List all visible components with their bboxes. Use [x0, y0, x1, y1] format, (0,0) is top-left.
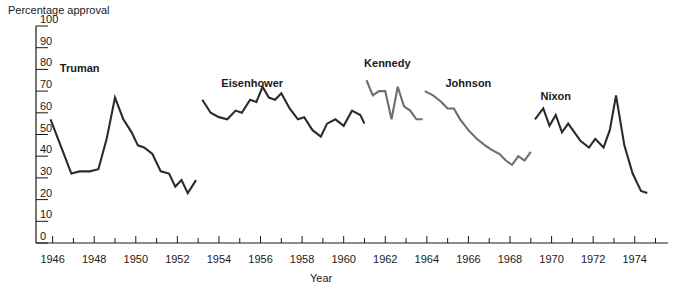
series-line-johnson — [425, 91, 531, 165]
series-annotations: TrumanEisenhowerKennedyJohnsonNixon — [60, 57, 572, 102]
x-tick-label: 1946 — [40, 253, 64, 265]
y-tick-label: 70 — [40, 78, 52, 90]
x-tick-label: 1962 — [373, 253, 397, 265]
series-label-kennedy: Kennedy — [364, 57, 411, 69]
x-tick-label: 1966 — [456, 253, 480, 265]
y-tick-label: 60 — [40, 100, 52, 112]
series-label-truman: Truman — [60, 62, 100, 74]
y-tick-label: 30 — [40, 165, 52, 177]
series-label-nixon: Nixon — [540, 90, 571, 102]
x-tick-label: 1974 — [622, 253, 646, 265]
y-tick-label: 20 — [40, 187, 52, 199]
y-tick-label: 0 — [40, 230, 46, 242]
x-tick-label: 1960 — [331, 253, 355, 265]
x-axis-title: Year — [310, 272, 333, 284]
series-line-truman — [51, 98, 197, 193]
y-tick-label: 10 — [40, 208, 52, 220]
x-axis-group: 1946194819501952195419561958196019621964… — [36, 236, 668, 265]
y-tick-label: 90 — [40, 35, 52, 47]
series-line-nixon — [535, 95, 647, 193]
x-tick-label: 1952 — [165, 253, 189, 265]
x-tick-label: 1954 — [207, 253, 231, 265]
series-label-johnson: Johnson — [445, 77, 491, 89]
x-axis-tick-labels: 1946194819501952195419561958196019621964… — [40, 253, 647, 265]
series-line-eisenhower — [202, 87, 364, 137]
y-tick-label: 50 — [40, 122, 52, 134]
series-label-eisenhower: Eisenhower — [221, 77, 283, 89]
x-tick-label: 1956 — [248, 253, 272, 265]
x-tick-label: 1972 — [581, 253, 605, 265]
y-tick-label: 80 — [40, 56, 52, 68]
x-tick-label: 1964 — [415, 253, 439, 265]
chart-canvas: 0102030405060708090100 19461948195019521… — [0, 0, 674, 292]
x-tick-label: 1970 — [539, 253, 563, 265]
y-tick-label: 40 — [40, 143, 52, 155]
approval-ratings-chart: 0102030405060708090100 19461948195019521… — [0, 0, 674, 292]
x-axis-ticks — [53, 236, 656, 243]
x-tick-label: 1950 — [124, 253, 148, 265]
x-tick-label: 1948 — [82, 253, 106, 265]
x-tick-label: 1968 — [498, 253, 522, 265]
x-tick-label: 1958 — [290, 253, 314, 265]
chart-title: Percentage approval — [8, 4, 110, 16]
series-line-kennedy — [367, 80, 423, 119]
